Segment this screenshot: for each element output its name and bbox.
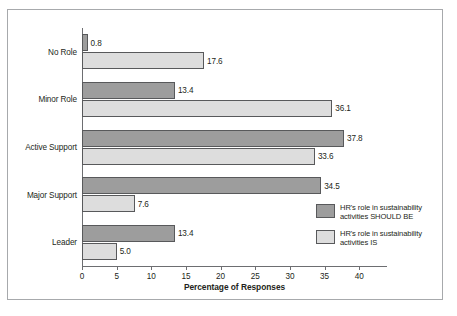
legend-label-line1: HR's role in sustainability xyxy=(340,203,422,212)
legend-item[interactable]: HR's role in sustainability activities S… xyxy=(316,203,446,222)
bar[interactable]: 5.0 xyxy=(82,243,117,260)
category-label: Leader xyxy=(52,238,77,247)
bar-value-label: 13.4 xyxy=(178,86,194,95)
x-axis-tick-label: 25 xyxy=(251,272,260,281)
bar-row: 33.6 xyxy=(82,148,387,165)
x-axis-tick xyxy=(290,266,291,270)
bar-row: 34.5 xyxy=(82,177,387,194)
x-axis-tick-label: 30 xyxy=(285,272,294,281)
chart-frame: No Role0.817.6Minor Role13.436.1Active S… xyxy=(7,9,443,300)
x-axis-tick-label: 40 xyxy=(355,272,364,281)
x-axis-tick xyxy=(82,266,83,270)
bar[interactable]: 0.8 xyxy=(82,34,88,51)
x-axis-tick xyxy=(186,266,187,270)
bar[interactable]: 17.6 xyxy=(82,52,204,69)
value-axis-line xyxy=(82,266,387,267)
bar-row: 13.4 xyxy=(82,82,387,99)
category-label: No Role xyxy=(48,47,77,56)
bar[interactable]: 37.8 xyxy=(82,130,344,147)
figure-caption xyxy=(10,305,450,316)
bar-value-label: 37.8 xyxy=(347,134,363,143)
x-axis-tick-label: 0 xyxy=(80,272,85,281)
bar-value-label: 17.6 xyxy=(207,56,223,65)
bar[interactable]: 13.4 xyxy=(82,225,175,242)
bar-group: Active Support37.833.6 xyxy=(82,130,387,165)
bar-value-label: 0.8 xyxy=(91,38,102,47)
bar-value-label: 13.4 xyxy=(178,229,194,238)
bar-value-label: 34.5 xyxy=(324,181,340,190)
legend-swatch-is xyxy=(316,230,335,244)
legend-label-line2: activities SHOULD BE xyxy=(340,212,413,221)
bar-value-label: 7.6 xyxy=(138,199,149,208)
bar[interactable]: 34.5 xyxy=(82,177,321,194)
bar-value-label: 36.1 xyxy=(335,104,351,113)
bar-value-label: 5.0 xyxy=(120,247,131,256)
bar-row: 0.8 xyxy=(82,34,387,51)
x-axis-tick xyxy=(221,266,222,270)
x-axis-title: Percentage of Responses xyxy=(82,282,387,292)
legend: HR's role in sustainability activities S… xyxy=(316,203,446,255)
legend-swatch-should-be xyxy=(316,204,335,218)
category-label: Minor Role xyxy=(38,95,77,104)
bar-row: 17.6 xyxy=(82,52,387,69)
bar-value-label: 33.6 xyxy=(318,152,334,161)
category-label: Major Support xyxy=(27,190,77,199)
category-label: Active Support xyxy=(25,143,77,152)
legend-label-should-be: HR's role in sustainability activities S… xyxy=(340,203,422,222)
x-axis-tick-label: 20 xyxy=(216,272,225,281)
x-axis-tick xyxy=(117,266,118,270)
figure: No Role0.817.6Minor Role13.436.1Active S… xyxy=(0,0,457,316)
x-axis-tick xyxy=(151,266,152,270)
x-axis-tick-label: 10 xyxy=(147,272,156,281)
x-axis-tick xyxy=(359,266,360,270)
bar[interactable]: 33.6 xyxy=(82,148,315,165)
bar[interactable]: 36.1 xyxy=(82,100,332,117)
legend-label-is: HR's role in sustainability activities I… xyxy=(340,229,422,248)
bar-group: Minor Role13.436.1 xyxy=(82,82,387,117)
x-axis-tick-label: 5 xyxy=(114,272,119,281)
legend-label-line2: activities IS xyxy=(340,238,377,247)
legend-item[interactable]: HR's role in sustainability activities I… xyxy=(316,229,446,248)
bar-row: 36.1 xyxy=(82,100,387,117)
x-axis-tick-label: 15 xyxy=(181,272,190,281)
x-axis-tick xyxy=(325,266,326,270)
x-axis-tick-label: 35 xyxy=(320,272,329,281)
bar[interactable]: 7.6 xyxy=(82,195,135,212)
x-axis-tick xyxy=(255,266,256,270)
bar-row: 37.8 xyxy=(82,130,387,147)
bar[interactable]: 13.4 xyxy=(82,82,175,99)
bar-group: No Role0.817.6 xyxy=(82,34,387,69)
legend-label-line1: HR's role in sustainability xyxy=(340,229,422,238)
